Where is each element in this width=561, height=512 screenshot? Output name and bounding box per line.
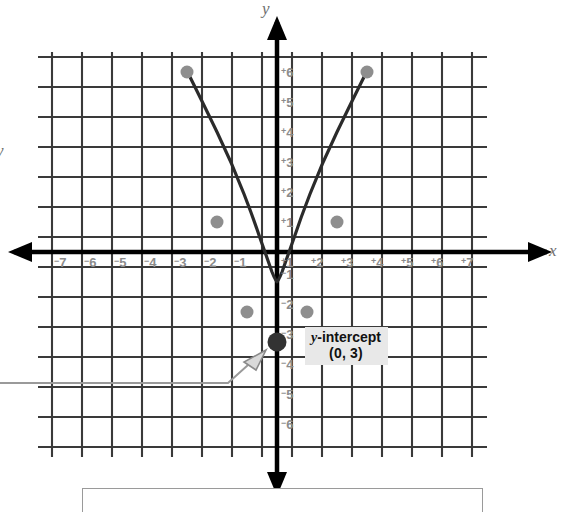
data-point-neg1-neg2 <box>241 306 254 319</box>
x-tick-pos7: +7 <box>461 256 474 269</box>
x-tick-pos2: +2 <box>311 256 324 269</box>
y-axis-label: y <box>262 0 270 17</box>
y-tick-pos5: +5 <box>281 96 294 109</box>
y-tick-neg3: −3 <box>281 328 294 341</box>
y-tick-pos6: +6 <box>281 66 294 79</box>
y-tick-pos2: +2 <box>281 186 294 199</box>
y-tick-pos1: +1 <box>281 216 294 229</box>
x-tick-neg5: −5 <box>114 256 127 269</box>
y-tick-neg2: −2 <box>281 298 294 311</box>
x-tick-neg4: −4 <box>144 256 157 269</box>
callout-coordinates: (0, 3) <box>311 346 381 362</box>
x-tick-pos6: +6 <box>431 256 444 269</box>
y-tick-neg4: −4 <box>281 358 294 371</box>
data-point-neg3-6 <box>181 66 194 79</box>
y-intercept-callout: y-intercept (0, 3) <box>305 327 388 365</box>
y-axis-label-partial: y <box>0 142 4 159</box>
y-tick-neg6: −6 <box>281 418 294 431</box>
x-tick-pos5: +5 <box>401 256 414 269</box>
y-tick-neg1: −1 <box>281 268 294 281</box>
callout-text: -intercept <box>317 329 381 345</box>
x-tick-pos4: +4 <box>371 256 384 269</box>
x-tick-neg6: −6 <box>84 256 97 269</box>
x-tick-neg3: −3 <box>174 256 187 269</box>
x-tick-neg7: −7 <box>54 256 67 269</box>
data-point-3-6 <box>361 66 374 79</box>
data-point-neg2-1 <box>211 216 224 229</box>
x-tick-pos3: +3 <box>341 256 354 269</box>
data-point-2-1 <box>331 216 344 229</box>
bottom-caption-box <box>82 488 483 512</box>
data-point-1-neg2 <box>301 306 314 319</box>
y-tick-pos4: +4 <box>281 126 294 139</box>
x-tick-neg1: −1 <box>234 256 247 269</box>
x-tick-neg2: −2 <box>204 256 217 269</box>
y-tick-neg5: −5 <box>281 388 294 401</box>
x-axis-label: x <box>549 242 557 259</box>
y-tick-pos3: +3 <box>281 156 294 169</box>
